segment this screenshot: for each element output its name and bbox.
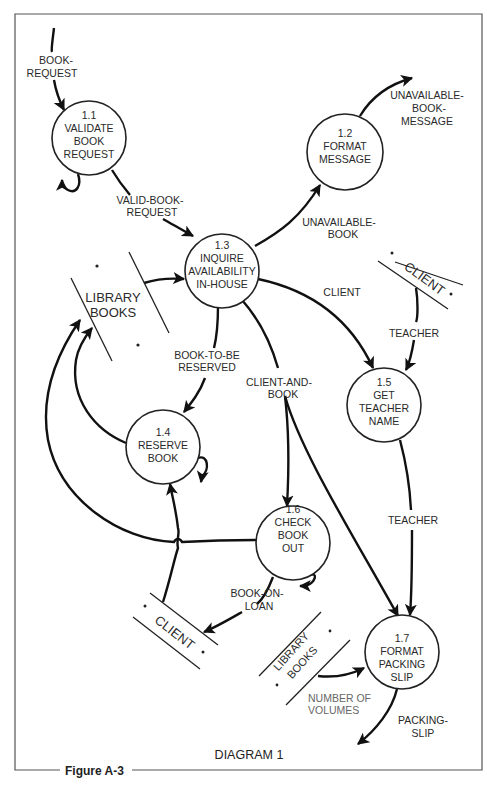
flow-book-to-be-reserved-arrow	[214, 306, 218, 348]
flow-label-line: UNAVAILABLE-	[302, 216, 376, 228]
process-1-2-number: 1.2	[338, 127, 353, 139]
process-1-4-number: 1.4	[156, 426, 171, 438]
flow-label-line: VOLUMES	[308, 704, 359, 716]
flow-label-unavailable-book-message: UNAVAILABLE- BOOK- MESSAGE	[390, 89, 464, 127]
process-1-5-number: 1.5	[377, 376, 392, 388]
flow-label-line: CLIENT	[323, 286, 361, 298]
flow-label-line: TEACHER	[388, 514, 439, 526]
process-1-6-label-line1: CHECK	[275, 516, 312, 528]
figure-label: Figure A-3	[65, 764, 124, 778]
store-library-books-line2: BOOKS	[90, 305, 137, 320]
process-1-5[interactable]: 1.5 GET TEACHER NAME	[347, 368, 421, 442]
store-marker-asterisk	[329, 630, 332, 633]
flow-label-teacher-in: TEACHER	[389, 327, 440, 339]
flow-label-line: LOAN	[245, 600, 274, 612]
flow-label-line: VALID-BOOK-	[117, 194, 184, 206]
flow-label-line: NUMBER OF	[308, 692, 371, 704]
process-1-6-number: 1.6	[286, 503, 301, 515]
process-1-4-label-line2: BOOK	[148, 452, 178, 464]
process-1-3-label-line1: INQUIRE	[200, 252, 244, 264]
process-1-6-label-line3: OUT	[282, 542, 305, 554]
flow-1-1-self-loop-arrow	[62, 174, 79, 191]
process-1-7-label-line3: SLIP	[391, 671, 414, 683]
store-marker-asterisk	[144, 605, 147, 608]
process-1-5-label-line3: NAME	[369, 415, 399, 427]
flow-label-line: BOOK-	[412, 102, 446, 114]
process-1-2-label-line1: FORMAT	[323, 140, 367, 152]
data-store-client-top[interactable]: CLIENT	[378, 252, 463, 310]
store-client-top-label: CLIENT	[402, 259, 448, 298]
store-client-bottom-label: CLIENT	[152, 612, 198, 652]
process-1-2-label-line2: MESSAGE	[319, 153, 371, 165]
data-flow-diagram: 1.1 VALIDATE BOOK REQUEST 1.2 FORMAT MES…	[0, 0, 498, 791]
store-marker-asterisk	[95, 264, 98, 267]
flow-teacher-in-arrow-tail	[406, 340, 414, 370]
process-1-6-label-line2: BOOK	[278, 529, 308, 541]
process-1-1-label-line1: VALIDATE	[64, 122, 113, 134]
flow-book-to-be-reserved-arrow-tail	[184, 378, 205, 412]
process-1-3[interactable]: 1.3 INQUIRE AVAILABILITY IN-HOUSE	[185, 234, 259, 308]
flow-label-line: REQUEST	[27, 67, 78, 79]
store-marker-asterisk	[276, 684, 279, 687]
flow-client-and-book-to-1-6-arrow	[285, 396, 288, 506]
process-1-3-label-line2: AVAILABILITY	[188, 265, 255, 277]
process-1-1-number: 1.1	[82, 109, 97, 121]
process-1-1-label-line2: BOOK	[74, 135, 104, 147]
diagram-title: DIAGRAM 1	[215, 748, 284, 762]
flow-label-client-and-book: CLIENT-AND- BOOK	[246, 376, 312, 400]
flow-library-to-1-3-arrow	[144, 278, 184, 283]
flow-label-book-on-loan: BOOK-ON- LOAN	[230, 587, 284, 612]
process-1-7-label-line2: PACKING	[379, 658, 425, 670]
flow-teacher-in-arrow	[416, 288, 418, 322]
process-1-1[interactable]: 1.1 VALIDATE BOOK REQUEST	[52, 101, 126, 175]
flow-valid-book-request-arrow-tail	[163, 219, 193, 236]
store-marker-asterisk	[202, 651, 205, 654]
store-library-books-line1: LIBRARY	[85, 290, 141, 305]
store-marker-asterisk	[136, 343, 139, 346]
flow-label-line: SLIP	[412, 727, 435, 739]
flow-book-on-loan-arrow-tail	[204, 612, 242, 632]
process-1-7-number: 1.7	[395, 632, 410, 644]
flow-label-client: CLIENT	[323, 286, 361, 298]
flow-label-line: BOOK-ON-	[230, 587, 284, 599]
process-1-3-number: 1.3	[215, 239, 230, 251]
flow-teacher-out-arrow-tail	[410, 530, 412, 615]
data-store-library-books-main[interactable]: LIBRARY BOOKS	[71, 252, 169, 361]
flow-label-line: BOOK	[328, 228, 358, 240]
store-marker-asterisk	[450, 293, 453, 296]
flow-client-and-book-trunk	[242, 300, 278, 368]
flow-number-of-volumes-arrow	[318, 668, 364, 677]
flow-label-teacher-out: TEACHER	[388, 514, 439, 526]
process-1-1-label-line3: REQUEST	[64, 148, 115, 160]
flow-1-4-to-library-arrow	[75, 328, 126, 443]
flow-label-line: MESSAGE	[401, 115, 453, 127]
flow-1-4-self-loop-arrow	[198, 457, 207, 482]
process-1-4-label-line1: RESERVE	[138, 439, 188, 451]
process-1-5-label-line2: TEACHER	[359, 402, 410, 414]
flow-label-line: BOOK	[268, 388, 298, 400]
flow-valid-book-request-arrow	[112, 170, 130, 195]
flow-label-valid-book-request: VALID-BOOK- REQUEST	[117, 194, 184, 218]
flow-label-line: CLIENT-AND-	[246, 376, 312, 388]
process-1-2[interactable]: 1.2 FORMAT MESSAGE	[307, 114, 383, 190]
process-1-3-label-line3: IN-HOUSE	[196, 278, 247, 290]
flow-label-line: UNAVAILABLE-	[390, 89, 464, 101]
process-1-5-label-line1: GET	[373, 389, 395, 401]
flow-label-line: RESERVED	[178, 361, 236, 373]
flow-label-line: REQUEST	[127, 206, 178, 218]
process-1-7[interactable]: 1.7 FORMAT PACKING SLIP	[365, 615, 439, 689]
store-marker-asterisk	[391, 252, 394, 255]
flow-label-line: PACKING-	[398, 714, 448, 726]
flow-label-line: BOOK-TO-BE	[174, 349, 240, 361]
flow-teacher-out-arrow	[400, 440, 411, 510]
flow-label-packing-slip: PACKING- SLIP	[398, 714, 448, 739]
flow-label-book-request: BOOK- REQUEST	[27, 54, 78, 79]
process-1-4[interactable]: 1.4 RESERVE BOOK	[126, 410, 200, 484]
flow-label-line: BOOK-	[39, 54, 73, 66]
flow-label-book-to-be-reserved: BOOK-TO-BE RESERVED	[174, 349, 240, 373]
process-1-7-label-line1: FORMAT	[380, 645, 424, 657]
flow-label-line: TEACHER	[389, 327, 440, 339]
process-1-6[interactable]: 1.6 CHECK BOOK OUT	[256, 503, 330, 580]
flow-label-unavailable-book: UNAVAILABLE- BOOK	[302, 216, 376, 240]
flow-label-number-of-volumes: NUMBER OF VOLUMES	[308, 692, 371, 716]
